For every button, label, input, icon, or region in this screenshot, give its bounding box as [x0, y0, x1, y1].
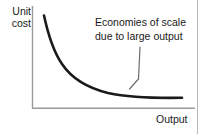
y-axis-label-line-1: Unit: [2, 6, 31, 18]
economies-of-scale-figure: Unit cost Output Economies of scale due …: [0, 0, 204, 134]
x-axis-label: Output: [156, 114, 188, 126]
y-axis-label: Unit cost: [2, 6, 31, 29]
economies-of-scale-annotation: Economies of scale due to large output: [95, 16, 186, 43]
annotation-line-2: due to large output: [95, 30, 186, 44]
annotation-leader-line: [130, 47, 141, 89]
y-axis-label-line-2: cost: [2, 18, 31, 30]
annotation-line-1: Economies of scale: [95, 16, 186, 30]
